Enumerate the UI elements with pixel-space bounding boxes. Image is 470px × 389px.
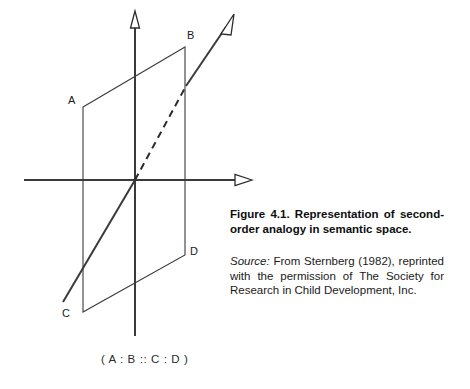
caption-source-word: Source: (230, 255, 270, 267)
caption-block: Figure 4.1. Representation of second-ord… (230, 207, 444, 298)
caption-title: Figure 4.1. Representation of second-ord… (230, 207, 444, 236)
semantic-space-diagram: A B C D ( A : B :: C : D ) (0, 0, 470, 389)
vertex-label-b: B (187, 29, 194, 41)
diagonal-axis-arrowhead-icon (221, 14, 234, 35)
figure-page: A B C D ( A : B :: C : D ) Figure 4.1. R… (0, 0, 470, 389)
horizontal-axis-arrowhead-icon (235, 175, 252, 186)
vertex-label-c: C (62, 307, 70, 319)
analogy-formula-label: ( A : B :: C : D ) (101, 353, 188, 365)
diagonal-axis-line-dashed (135, 86, 186, 180)
vertical-axis-arrowhead-icon (131, 11, 140, 28)
vertex-label-d: D (190, 245, 198, 257)
caption-source: Source: From Sternberg (1982), reprinted… (230, 254, 444, 298)
vertex-label-a: A (68, 94, 76, 106)
diagonal-axis-line-solid (63, 180, 135, 302)
